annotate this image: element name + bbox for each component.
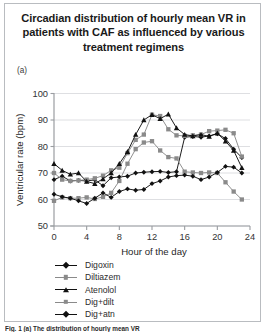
x-tick-label: 4 <box>84 232 89 242</box>
data-point <box>52 177 57 182</box>
data-point <box>60 177 64 181</box>
data-point <box>125 162 129 166</box>
x-tick-label: 12 <box>147 232 157 242</box>
data-point <box>174 156 178 160</box>
data-point <box>199 171 203 175</box>
legend-label: Digoxin <box>79 260 114 270</box>
y-tick-label: 60 <box>38 195 48 205</box>
legend-item-dig-dilt[interactable]: Dig+dilt <box>53 296 203 308</box>
legend-marker-icon <box>53 260 79 271</box>
data-point <box>125 186 130 191</box>
data-point <box>133 132 138 137</box>
data-point <box>232 131 236 135</box>
data-point <box>133 171 138 176</box>
x-axis-title: Hour of the day <box>121 246 187 257</box>
y-tick-label: 80 <box>38 142 48 152</box>
legend-label: Dig+atn <box>79 309 115 319</box>
legend-item-digoxin[interactable]: Digoxin <box>53 259 203 271</box>
data-point <box>166 111 171 116</box>
data-point <box>166 175 171 180</box>
data-point <box>232 189 236 193</box>
legend-symbol-square-icon <box>64 275 68 279</box>
data-point <box>52 171 56 175</box>
legend-symbol-triangle-icon <box>63 287 69 292</box>
x-tick-label: 8 <box>117 232 122 242</box>
chart-legend: DigoxinDiltiazemAtenololDig+diltDig+atn <box>53 259 203 320</box>
data-point <box>166 155 170 159</box>
data-point <box>51 161 56 166</box>
legend-item-diltiazem[interactable]: Diltiazem <box>53 271 203 283</box>
data-point <box>101 195 105 199</box>
data-point <box>240 154 244 158</box>
data-point <box>239 165 244 170</box>
data-point <box>93 176 97 180</box>
data-point <box>174 133 178 137</box>
data-point <box>52 199 56 203</box>
data-point <box>109 191 113 195</box>
figure-caption: Fig. 1 (a) The distribution of hourly me… <box>5 325 262 332</box>
data-point <box>125 174 130 179</box>
data-point <box>223 180 227 184</box>
data-point <box>174 173 179 178</box>
x-tick-label: 16 <box>179 232 189 242</box>
legend-item-dig-atn[interactable]: Dig+atn <box>53 308 203 320</box>
legend-label: Atenolol <box>79 285 116 295</box>
data-point <box>166 127 170 131</box>
data-point <box>174 125 179 130</box>
data-point <box>142 140 146 144</box>
y-tick-label: 100 <box>32 89 48 99</box>
data-point <box>223 128 227 132</box>
data-point <box>142 132 146 136</box>
data-point <box>207 170 211 174</box>
y-tick-label: 50 <box>38 221 48 231</box>
series-line <box>54 115 242 181</box>
y-tick-label: 70 <box>38 168 48 178</box>
data-point <box>101 190 106 195</box>
legend-marker-icon <box>53 297 79 308</box>
data-point <box>166 170 171 175</box>
data-point <box>133 188 138 193</box>
y-tick-label: 90 <box>38 115 48 125</box>
data-point <box>150 139 154 143</box>
legend-label: Diltiazem <box>79 272 120 282</box>
legend-marker-icon <box>53 309 79 320</box>
data-point <box>240 197 244 201</box>
series-line <box>54 141 242 201</box>
legend-symbol-square-icon <box>64 300 68 304</box>
legend-marker-icon <box>53 284 79 295</box>
data-point <box>207 129 211 133</box>
legend-item-atenolol[interactable]: Atenolol <box>53 284 203 296</box>
y-axis-title: Ventricular rate (bpm) <box>14 114 25 206</box>
data-point <box>52 192 57 197</box>
series-dig-dilt <box>52 139 244 203</box>
data-point <box>85 195 89 199</box>
x-tick-label: 0 <box>51 232 56 242</box>
x-tick-label: 20 <box>212 232 222 242</box>
data-point <box>84 201 89 206</box>
data-point <box>158 179 163 184</box>
data-point <box>117 166 121 170</box>
x-tick-label: 24 <box>245 232 255 242</box>
data-point <box>134 147 138 151</box>
data-point <box>141 170 146 175</box>
data-point <box>207 175 212 180</box>
data-point <box>199 177 204 182</box>
figure-panel: Circadian distribution of hourly mean VR… <box>4 3 261 322</box>
legend-symbol-diamond-icon <box>63 262 69 268</box>
legend-symbol-diamond-icon <box>63 311 69 317</box>
data-point <box>68 179 72 183</box>
data-point <box>117 179 121 183</box>
data-point <box>76 178 80 182</box>
data-point <box>158 148 162 152</box>
legend-label: Dig+dilt <box>79 297 114 307</box>
legend-marker-icon <box>53 272 79 283</box>
